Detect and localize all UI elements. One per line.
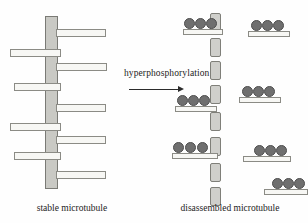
tau-backbone: [248, 31, 290, 37]
bound-tau-protein: [56, 136, 106, 144]
hyperphosphorylated-tau-protein: [243, 145, 291, 162]
phosphate-group-icon: [173, 142, 184, 153]
microtubule-filament: [45, 16, 58, 189]
tau-backbone: [239, 97, 281, 103]
phosphate-group-icon: [294, 178, 305, 189]
tubulin-subunit: [210, 112, 221, 131]
phosphate-group-icon: [184, 18, 195, 29]
phosphate-group-icon: [262, 20, 273, 31]
tau-backbone: [172, 153, 218, 159]
phosphate-group-icon: [265, 145, 276, 156]
bound-tau-protein: [56, 29, 106, 37]
hyperphosphorylated-tau-protein: [183, 18, 223, 35]
phosphate-group-icon: [273, 20, 284, 31]
phosphate-group-icon: [242, 86, 253, 97]
phosphate-group-icon: [253, 86, 264, 97]
phosphate-group-icon: [188, 95, 199, 106]
hyperphosphorylated-tau-protein: [248, 20, 290, 37]
phosphate-group-icon: [206, 18, 217, 29]
bound-tau-protein: [56, 171, 106, 179]
bound-tau-protein: [14, 152, 61, 160]
hyperphosphorylated-tau-protein: [264, 178, 308, 195]
bound-tau-protein: [14, 83, 61, 91]
reaction-arrow-line: [129, 89, 179, 90]
tubulin-subunit: [210, 61, 221, 80]
hyperphosphorylated-tau-protein: [239, 86, 281, 103]
reaction-label: hyperphosphorylation: [124, 68, 209, 78]
bound-tau-protein: [56, 63, 107, 71]
hyperphosphorylated-tau-protein: [175, 95, 217, 112]
phosphate-group-icon: [283, 178, 294, 189]
phosphate-group-icon: [177, 95, 188, 106]
phosphate-group-icon: [254, 145, 265, 156]
phosphate-group-icon: [199, 95, 210, 106]
phosphate-group-icon: [264, 86, 275, 97]
bound-tau-protein: [10, 49, 61, 57]
phosphate-group-icon: [272, 178, 283, 189]
tau-backbone: [243, 156, 291, 162]
tau-backbone: [175, 106, 217, 112]
phosphate-group-icon: [185, 142, 196, 153]
reaction-arrow-head-icon: [178, 86, 184, 92]
caption-stable-microtubule: stable microtubule: [22, 203, 122, 213]
phosphate-group-icon: [197, 142, 208, 153]
bound-tau-protein: [56, 104, 106, 112]
tau-backbone: [264, 189, 308, 195]
figure-canvas: hyperphosphorylation stable microtubule …: [0, 0, 308, 223]
phosphate-group-icon: [195, 18, 206, 29]
tubulin-subunit: [210, 163, 221, 182]
tubulin-subunit: [210, 38, 221, 57]
caption-disassembled-microtubule: disassembled microtubule: [165, 203, 295, 213]
phosphate-group-icon: [251, 20, 262, 31]
bound-tau-protein: [10, 123, 61, 131]
phosphate-group-icon: [276, 145, 287, 156]
tau-backbone: [183, 29, 223, 35]
hyperphosphorylated-tau-protein: [172, 142, 218, 159]
